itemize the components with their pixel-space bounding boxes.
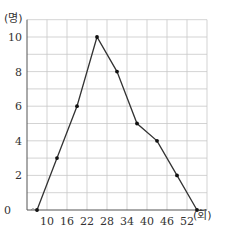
y-tick-label: 2 [15,169,22,182]
data-point [75,104,79,108]
x-tick-label: 40 [140,215,154,228]
frequency-polygon-chart: 246810 1016222834404652 (명) (회) 0 [0,0,225,236]
y-tick-labels: 246810 [8,31,22,182]
x-axis-unit: (회) [193,209,212,222]
data-point [55,156,59,160]
origin-label: 0 [4,204,11,217]
x-tick-label: 28 [100,215,114,228]
x-tick-label: 10 [40,215,54,228]
y-tick-label: 8 [15,66,22,79]
data-point [155,139,159,143]
y-tick-label: 4 [15,135,22,148]
x-tick-label: 22 [80,215,94,228]
data-point [175,174,179,178]
y-axis-unit: (명) [4,12,23,25]
x-tick-label: 34 [120,215,134,228]
data-point [115,70,119,74]
y-tick-label: 10 [8,31,22,44]
x-tick-labels: 1016222834404652 [40,215,194,228]
data-point [135,122,139,126]
y-tick-label: 6 [15,100,22,113]
x-tick-label: 46 [160,215,174,228]
x-tick-label: 52 [180,215,194,228]
x-tick-label: 16 [60,215,74,228]
data-point [95,35,99,39]
data-point [35,208,39,212]
axes [27,20,207,212]
